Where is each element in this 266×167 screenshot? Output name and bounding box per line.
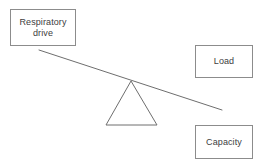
node-respiratory-drive-label: Respiratory drive (17, 17, 68, 39)
node-load: Load (195, 45, 253, 78)
node-capacity-label: Capacity (204, 137, 244, 148)
diagram-canvas: Respiratory drive Load Capacity (0, 0, 266, 167)
fulcrum-triangle-shape (106, 81, 157, 125)
node-respiratory-drive: Respiratory drive (10, 9, 76, 46)
node-load-label: Load (212, 56, 236, 67)
node-capacity: Capacity (195, 125, 253, 159)
